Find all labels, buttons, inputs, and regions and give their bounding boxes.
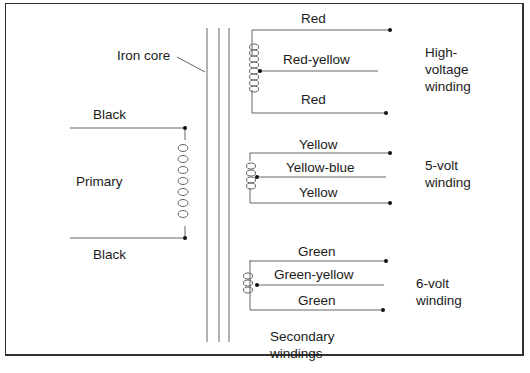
5v-winding-label-2: winding — [425, 175, 471, 191]
6v-bottom-lead-label: Green — [298, 293, 336, 309]
terminal-dot — [384, 259, 388, 263]
terminal-dot — [388, 28, 392, 32]
terminal-dot — [255, 283, 259, 287]
terminal-dot — [183, 236, 187, 240]
terminal-dot — [388, 201, 392, 205]
terminal-dot — [183, 126, 187, 130]
5v-center-tap-label: Yellow-blue — [286, 160, 355, 176]
hv-coil-icon — [250, 44, 259, 92]
6v-center-tap-label: Green-yellow — [274, 267, 354, 283]
terminal-dot — [388, 151, 392, 155]
5v-winding-label-1: 5-volt — [425, 158, 458, 174]
6v-coil-icon — [244, 273, 253, 293]
primary-coil-icon — [178, 145, 188, 218]
terminal-dot — [255, 175, 259, 179]
core-pointer-arrow — [177, 57, 205, 72]
primary-bottom-lead-label: Black — [93, 247, 126, 263]
hv-bottom-lead-label: Red — [301, 92, 326, 108]
6v-winding-label-2: winding — [416, 293, 462, 309]
5v-bottom-lead-label: Yellow — [299, 185, 338, 201]
secondary-windings-label-2: windings — [270, 346, 323, 362]
primary-label: Primary — [76, 174, 123, 190]
iron-core-label: Iron core — [117, 48, 170, 64]
terminal-dot — [381, 308, 385, 312]
6v-winding-label-1: 6-volt — [416, 276, 449, 292]
6v-top-lead — [250, 260, 386, 261]
5v-top-lead-label: Yellow — [299, 137, 338, 153]
secondary-windings-label-1: Secondary — [270, 329, 335, 345]
hv-winding-label-1: High- — [425, 45, 457, 61]
hv-winding-label-3: winding — [425, 79, 471, 95]
6v-top-lead-label: Green — [298, 244, 336, 260]
hv-top-lead-label: Red — [301, 11, 326, 27]
terminal-dot — [384, 111, 388, 115]
hv-winding-label-2: voltage — [425, 62, 469, 78]
hv-center-tap-label: Red-yellow — [283, 52, 350, 68]
5v-top-lead — [250, 153, 390, 154]
terminal-dot — [258, 69, 262, 73]
primary-top-lead-label: Black — [93, 107, 126, 123]
5v-coil-icon — [247, 163, 256, 189]
